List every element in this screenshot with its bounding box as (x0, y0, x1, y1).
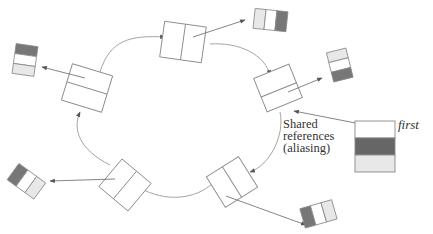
list-node (99, 159, 151, 211)
link-arrow (77, 112, 110, 165)
element-object (7, 164, 45, 200)
link-arrow (140, 183, 213, 197)
shared-references-annotation: Shared references (aliasing) (283, 118, 334, 154)
link-arrow (250, 112, 281, 172)
link-arrow (210, 44, 270, 75)
element-object (253, 8, 288, 31)
annotation-line: (aliasing) (283, 142, 334, 154)
link-arrow (100, 37, 165, 72)
element-object (12, 44, 38, 77)
circular-list-diagram (0, 0, 433, 234)
first-variable-label: first (398, 117, 419, 133)
first-object (355, 121, 395, 172)
list-node (160, 21, 207, 62)
element-object (300, 200, 337, 228)
list-node (254, 64, 303, 112)
element-pointer (226, 196, 306, 225)
list-node (61, 64, 112, 113)
element-object (326, 48, 353, 82)
list-node (206, 157, 257, 208)
